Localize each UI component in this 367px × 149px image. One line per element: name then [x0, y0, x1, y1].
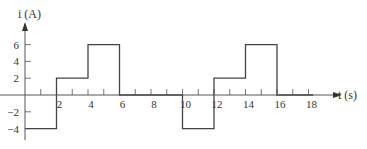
y-axis-ticks: −4−2246: [7, 39, 31, 135]
x-axis-ticks: 24681012141618: [41, 89, 318, 110]
y-tick-label: −4: [7, 123, 19, 135]
x-tick-label: 14: [243, 98, 255, 110]
x-tick-label: 6: [120, 98, 126, 110]
y-tick-label: 2: [14, 72, 20, 84]
y-tick-label: −2: [7, 106, 19, 118]
step-current-chart: 24681012141618 −4−2246 i (A) t (s): [0, 0, 367, 149]
x-tick-label: 16: [275, 98, 287, 110]
x-tick-label: 4: [88, 98, 94, 110]
x-tick-label: 8: [151, 98, 157, 110]
y-tick-label: 4: [14, 55, 20, 67]
current-waveform: [25, 45, 313, 129]
y-tick-label: 6: [14, 39, 20, 51]
x-tick-label: 10: [180, 98, 192, 110]
x-tick-label: 2: [57, 98, 63, 110]
x-tick-label: 12: [212, 98, 223, 110]
x-axis-label: t (s): [338, 88, 357, 102]
x-tick-label: 18: [306, 98, 318, 110]
y-axis-arrow-icon: [22, 22, 28, 31]
waveform-line: [25, 45, 313, 129]
y-axis-label: i (A): [18, 7, 41, 21]
